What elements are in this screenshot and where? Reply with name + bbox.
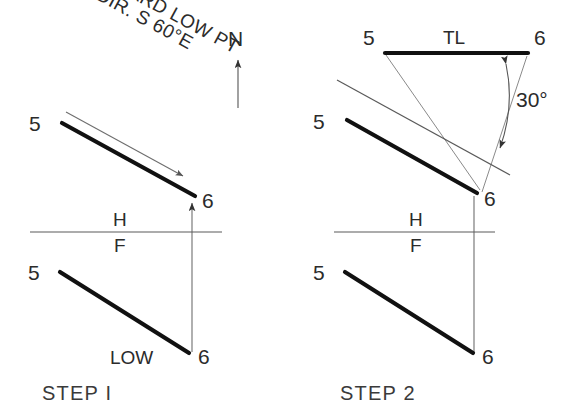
step-caption-1: STEP I	[42, 382, 112, 404]
fold-label-f-step1: F	[114, 235, 126, 256]
top-view-point-5-step2: 5	[313, 110, 325, 133]
front-view-point-6-step2: 6	[482, 345, 494, 368]
aux-view-point-6: 6	[534, 26, 546, 49]
top-view-point-6-step1: 6	[202, 189, 214, 212]
step-caption-2: STEP 2	[340, 382, 416, 404]
top-view-line-5-6-step2	[347, 120, 477, 193]
slope-angle-dimension: 30°	[500, 64, 548, 148]
front-view-point-5-step1: 5	[28, 261, 40, 284]
front-view-point-6-step1: 6	[198, 345, 210, 368]
fold-line-hf-step2: H F	[334, 209, 495, 256]
slope-direction-notes: TOWARD LOW PT SL. DIR. S 60°E	[62, 0, 243, 73]
slope-angle-value: 30°	[516, 88, 548, 111]
fold-line-hf-step1: H F	[30, 209, 222, 256]
front-view-point-5-step2: 5	[313, 261, 325, 284]
fold-label-h-step1: H	[113, 209, 127, 230]
low-marker-step1: LOW	[110, 347, 153, 368]
drawing-canvas: N TOWARD LOW PT SL. DIR. S 60°E 5 6 H F …	[0, 0, 586, 418]
aux-view-point-5: 5	[363, 26, 375, 49]
fold-label-h-step2: H	[409, 209, 423, 230]
descriptive-geometry-figure: N TOWARD LOW PT SL. DIR. S 60°E 5 6 H F …	[0, 0, 586, 418]
slope-angle-leader	[500, 64, 509, 148]
top-view-line-5-6-step1	[62, 123, 195, 196]
fold-label-f-step2: F	[410, 235, 422, 256]
top-view-point-6-step2: 6	[484, 187, 496, 210]
true-length-label: TL	[443, 27, 465, 48]
front-view-line-5-6-step2	[345, 272, 473, 353]
front-view-line-5-6-step1	[60, 272, 189, 353]
direction-arrow-step1	[66, 112, 183, 176]
top-view-point-5-step1: 5	[29, 112, 41, 135]
